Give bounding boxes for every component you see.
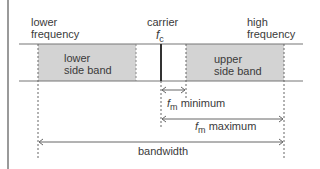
lower-side-band-label: lower side band [64,52,112,76]
upper-side-band-label: upper side band [214,53,262,77]
high-frequency-label: high frequency [247,16,295,40]
fm-minimum-label: fm minimum [167,97,225,113]
carrier-label: carrier [147,16,178,28]
fc-label: fc [156,29,164,45]
lower-frequency-label: lower frequency [31,16,79,40]
fm-minimum-arrow [162,87,185,93]
bandwidth-label: bandwidth [138,145,188,157]
fm-maximum-label: fm maximum [195,120,256,136]
